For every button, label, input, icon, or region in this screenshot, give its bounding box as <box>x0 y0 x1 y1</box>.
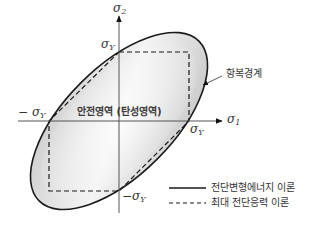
sigma1-axis-label: σ1 <box>227 113 240 127</box>
legend-item-von-mises: 전단변형에너지 이론 <box>211 183 295 193</box>
sigma-symbol: σ <box>190 122 198 136</box>
tick-right-sigma-y: σY <box>190 123 203 137</box>
tick-bottom-neg-sigma-y: −σY <box>122 190 146 204</box>
sigma-symbol: σ <box>227 112 235 126</box>
sigma-symbol: σ <box>101 37 109 51</box>
yield-boundary-callout: 항복경계 <box>226 69 262 79</box>
yield-criteria-diagram: σ2 σ1 σY σY − σY −σY 항복경계 안전영역 (탄성영역) 전단… <box>0 0 322 227</box>
safe-region-label: 안전영역 (탄성영역) <box>77 107 162 117</box>
subscript: Y <box>198 128 203 137</box>
tick-top-sigma-y: σY <box>101 38 114 52</box>
sign: − <box>18 105 28 119</box>
sign: − <box>122 189 132 203</box>
subscript: 2 <box>121 7 126 16</box>
subscript: Y <box>140 195 145 204</box>
subscript: Y <box>40 111 45 120</box>
sigma2-axis-label: σ2 <box>113 2 126 16</box>
subscript: 1 <box>235 118 240 127</box>
sigma-symbol: σ <box>32 105 40 119</box>
subscript: Y <box>109 43 114 52</box>
tick-left-neg-sigma-y: − σY <box>18 106 45 120</box>
sigma-symbol: σ <box>113 1 121 15</box>
legend-item-tresca: 최대 전단응력 이론 <box>211 198 289 208</box>
